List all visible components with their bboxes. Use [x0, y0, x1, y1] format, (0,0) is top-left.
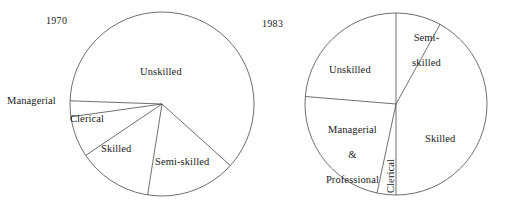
right-slice-label-unskilled: Unskilled	[329, 64, 371, 76]
pie-chart-figure: 1970 Unskilled Managerial Clerical Skill…	[0, 0, 513, 209]
right-slice-label-managerial-professional: Managerial & Professional	[311, 112, 383, 199]
right-chart-year-label: 1983	[262, 18, 283, 30]
right-slice-label-managerial-line1: Managerial	[328, 124, 377, 135]
right-slice-label-semi-skilled-line1: Semi-	[414, 32, 440, 43]
left-slice-label-semi-skilled: Semi-skilled	[155, 156, 209, 168]
left-slice-label-unskilled: Unskilled	[140, 66, 182, 78]
left-slice-label-clerical: Clerical	[70, 113, 104, 125]
left-slice-label-managerial: Managerial	[7, 95, 56, 107]
right-slice-label-clerical: Clerical	[385, 159, 397, 193]
right-slice-label-semi-skilled-line2: skilled	[412, 57, 441, 68]
left-slice-label-skilled: Skilled	[101, 143, 131, 155]
right-slice-label-managerial-line2: &	[348, 149, 356, 160]
right-slice-label-semi-skilled: Semi- skilled	[400, 20, 442, 82]
right-divider-managerial-unskilled	[305, 97, 396, 105]
left-chart-year-label: 1970	[46, 15, 67, 27]
right-slice-label-managerial-line3: Professional	[326, 174, 379, 185]
right-slice-label-skilled: Skilled	[425, 133, 455, 145]
